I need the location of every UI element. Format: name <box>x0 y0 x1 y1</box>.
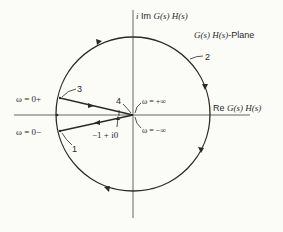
point-0-plus-dot <box>59 97 61 99</box>
path-label-3: 3 <box>77 84 82 94</box>
leader-line-3 <box>62 89 76 97</box>
omega-minus-inf-label: ω = −∞ <box>142 126 166 135</box>
leader-line-plus-inf <box>135 103 141 113</box>
nyquist-plot-canvas: i Im G(s) H(s) G(s) H(s)-Plane Re G(s) H… <box>0 0 283 232</box>
arrow-icon <box>198 147 204 153</box>
omega-0-plus-label: ω = 0+ <box>16 94 41 104</box>
plane-label: G(s) H(s)-Plane <box>194 30 254 40</box>
nyquist-diagram: i Im G(s) H(s) G(s) H(s)-Plane Re G(s) H… <box>0 0 283 232</box>
arrow-icon <box>104 186 110 192</box>
leader-line-2 <box>190 56 203 59</box>
path-3-line <box>60 98 133 115</box>
path-label-2: 2 <box>205 52 210 62</box>
leader-line-minus-inf <box>135 117 141 128</box>
arrow-icon <box>94 120 100 125</box>
circle-axis-dot <box>56 114 59 117</box>
path-label-1: 1 <box>72 144 77 154</box>
imag-axis-label: i Im G(s) H(s) <box>136 11 188 21</box>
critical-point-label: −1 + i0 <box>92 130 119 140</box>
arrow-icon <box>202 84 208 90</box>
point-0-minus-dot <box>59 130 61 132</box>
path-label-4: 4 <box>116 96 121 106</box>
leader-line-1 <box>62 133 72 145</box>
omega-0-minus-label: ω = 0− <box>16 127 41 137</box>
real-axis-label: Re G(s) H(s) <box>213 103 261 113</box>
leader-line-4 <box>123 104 131 113</box>
omega-plus-inf-label: ω = +∞ <box>142 97 166 106</box>
